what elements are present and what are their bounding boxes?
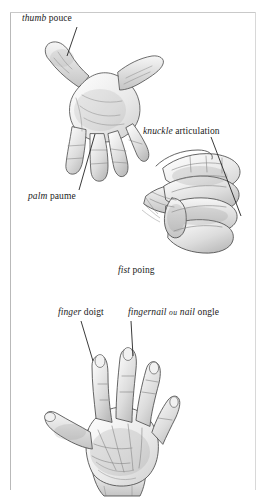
label-fingernail-french: ongle bbox=[198, 307, 220, 317]
label-fingernail-alt-english: nail bbox=[180, 307, 195, 317]
label-knuckle-french: articulation bbox=[175, 126, 219, 136]
label-palm-french: paume bbox=[50, 191, 76, 201]
label-fingernail: fingernail ou nail ongle bbox=[128, 308, 219, 318]
label-knuckle-english: knuckle bbox=[143, 126, 173, 136]
label-thumb: thumb pouce bbox=[22, 14, 72, 24]
plate-canvas: thumb pouce palm paume knuckle articulat… bbox=[0, 0, 256, 498]
label-knuckle: knuckle articulation bbox=[143, 127, 220, 137]
label-fist: fist poing bbox=[118, 266, 155, 276]
label-fingernail-english: fingernail bbox=[128, 307, 166, 317]
label-finger: finger doigt bbox=[58, 308, 104, 318]
label-finger-english: finger bbox=[58, 307, 81, 317]
label-palm: palm paume bbox=[28, 192, 76, 202]
label-fist-english: fist bbox=[118, 265, 130, 275]
label-thumb-english: thumb bbox=[22, 13, 46, 23]
leader-line-fingernail bbox=[0, 0, 256, 498]
label-fist-french: poing bbox=[133, 265, 155, 275]
label-thumb-french: pouce bbox=[49, 13, 72, 23]
label-finger-french: doigt bbox=[84, 307, 104, 317]
label-fingernail-conjunction: ou bbox=[169, 308, 177, 317]
label-palm-english: palm bbox=[28, 191, 47, 201]
